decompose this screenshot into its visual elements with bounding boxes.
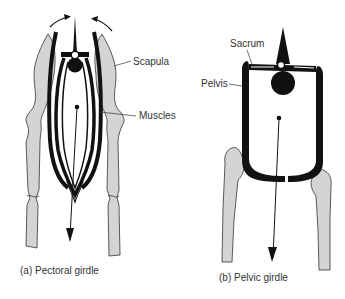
scapula-leader-line — [114, 61, 131, 66]
weight-force-line — [273, 118, 279, 258]
weight-force-arrowhead — [66, 228, 74, 242]
pelvic-girdle-caption: (b) Pelvic girdle — [219, 272, 288, 283]
left-femur — [222, 147, 244, 262]
pectoral-girdle-panel: Scapula Muscles (a) Pectoral girdle — [20, 14, 176, 276]
right-femur — [311, 169, 331, 270]
vertebra-body — [68, 58, 83, 73]
pectoral-girdle-caption: (a) Pectoral girdle — [20, 265, 99, 276]
muscle-sling-outer — [56, 58, 94, 195]
right-rotation-arrowhead — [91, 16, 98, 22]
pelvic-girdle-panel: Sacrum Pelvis (b) Pelvic girdle — [201, 27, 331, 283]
sacral-canal — [278, 62, 285, 69]
sacrum-label: Sacrum — [230, 38, 264, 49]
sacral-vertebra-body — [271, 71, 295, 95]
vertebral-canal — [71, 51, 79, 59]
pelvis-label: Pelvis — [201, 78, 228, 89]
left-rotation-arrowhead — [64, 14, 71, 20]
weight-force-line — [70, 107, 77, 236]
sacral-spine — [276, 27, 290, 64]
girdle-diagram: Scapula Muscles (a) Pectoral girdle Sacr… — [0, 0, 345, 299]
muscles-label: Muscles — [139, 110, 176, 121]
muscle-sling-inner — [62, 62, 87, 188]
vertebra-spine — [73, 16, 77, 54]
weight-force-arrowhead — [268, 247, 277, 262]
scapula-label: Scapula — [133, 56, 170, 67]
pelvis-leader-line — [229, 84, 242, 86]
